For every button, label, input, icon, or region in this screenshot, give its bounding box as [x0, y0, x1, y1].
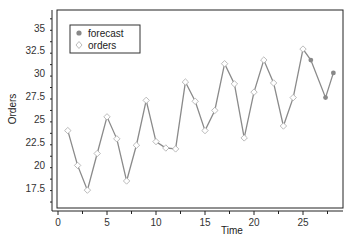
- x-axis: 0510152025: [52, 211, 343, 228]
- orders-point: [114, 136, 120, 142]
- y-tick-label: 30: [34, 68, 46, 79]
- y-axis: 17.52022.52527.53032.535: [26, 10, 52, 211]
- x-tick-label: 10: [150, 217, 162, 228]
- y-tick-label: 32.5: [26, 45, 46, 56]
- x-tick-label: 0: [55, 217, 61, 228]
- y-tick-label: 25: [34, 114, 46, 125]
- y-tick-label: 22.5: [26, 137, 46, 148]
- orders-point: [182, 79, 188, 85]
- orders-point: [74, 162, 80, 168]
- orders-point: [104, 114, 110, 120]
- y-tick-label: 35: [34, 23, 46, 34]
- orders-point: [202, 127, 208, 133]
- forecast-point: [323, 95, 328, 100]
- orders-point: [94, 150, 100, 156]
- orders-point: [221, 61, 227, 67]
- orders-point: [231, 81, 237, 87]
- orders-point: [251, 89, 257, 95]
- orders-point: [261, 57, 267, 63]
- orders-point: [241, 135, 247, 141]
- x-tick-label: 20: [248, 217, 260, 228]
- y-tick-label: 27.5: [26, 91, 46, 102]
- y-axis-label: Orders: [7, 94, 18, 125]
- orders-point: [123, 178, 129, 184]
- forecast-point: [308, 58, 313, 63]
- series-layer: [65, 46, 336, 193]
- legend-forecast-marker-icon: [76, 30, 81, 35]
- orders-point: [84, 187, 90, 193]
- orders-point: [143, 97, 149, 103]
- orders-point: [212, 107, 218, 113]
- x-tick-label: 5: [104, 217, 110, 228]
- y-tick-label: 20: [34, 160, 46, 171]
- orders-point: [270, 80, 276, 86]
- x-axis-label: Time: [221, 225, 243, 236]
- line-chart: 17.52022.52527.53032.535 0510152025 Time…: [0, 0, 350, 242]
- orders-point: [192, 98, 198, 104]
- orders-point: [172, 146, 178, 152]
- legend-forecast-label: forecast: [88, 28, 124, 39]
- x-tick-label: 15: [199, 217, 211, 228]
- forecast-point: [331, 70, 336, 75]
- orders-point: [133, 142, 139, 148]
- x-tick-label: 25: [297, 217, 309, 228]
- legend-orders-label: orders: [88, 40, 116, 51]
- y-tick-label: 17.5: [26, 183, 46, 194]
- orders-point: [280, 123, 286, 129]
- orders-point: [65, 127, 71, 133]
- forecast-line: [303, 49, 333, 98]
- legend: forecast orders: [70, 25, 140, 53]
- orders-line: [68, 49, 303, 190]
- orders-point: [290, 94, 296, 100]
